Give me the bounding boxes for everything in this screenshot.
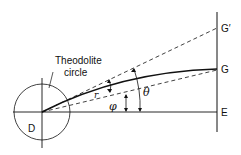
r-arrow-icon: [107, 89, 112, 93]
theodolite-diagram: Theodolite circle D E G G′ r φ θ: [0, 0, 241, 155]
label-theodolite: Theodolite: [55, 55, 102, 66]
label-phi: φ: [109, 100, 117, 113]
label-E: E: [221, 107, 228, 118]
label-circle: circle: [64, 67, 88, 78]
phi-arrow-down-icon: [124, 108, 128, 112]
theta-arc: [134, 69, 140, 111]
r-arrow-up-icon: [107, 79, 111, 83]
label-G: G: [221, 64, 229, 75]
label-G-prime: G′: [221, 23, 231, 34]
phi-arrow-up-icon: [124, 94, 128, 98]
label-D: D: [28, 123, 35, 134]
label-r: r: [94, 90, 99, 100]
theta-arrow-down-icon: [138, 108, 142, 112]
label-theta: θ: [143, 86, 150, 99]
